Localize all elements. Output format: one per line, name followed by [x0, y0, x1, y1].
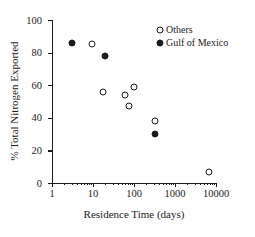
x-tick-minor [169, 183, 170, 185]
legend-marker [157, 39, 164, 46]
data-point [102, 52, 109, 59]
data-point [125, 103, 132, 110]
x-tick-minor [207, 183, 208, 185]
y-tick: 100 [48, 20, 52, 21]
x-tick-minor [195, 183, 196, 185]
x-tick-minor [125, 183, 126, 185]
filled-circle-icon [154, 39, 166, 46]
x-tick-minor [173, 183, 174, 185]
data-point [68, 39, 75, 46]
y-axis-title: % Total Nitrogen Exported [8, 21, 20, 181]
x-tick [216, 183, 217, 187]
legend-label: Others [166, 25, 193, 35]
x-tick-minor [128, 183, 129, 185]
x-tick-minor [154, 183, 155, 185]
legend-marker [157, 26, 164, 33]
x-tick-minor [64, 183, 65, 185]
y-axis-line [52, 20, 53, 183]
x-tick-minor [89, 183, 90, 185]
open-circle-icon [154, 26, 166, 33]
x-tick-label: 10000 [203, 189, 229, 200]
data-point [152, 131, 159, 138]
x-tick-minor [77, 183, 78, 185]
x-tick-minor [166, 183, 167, 185]
x-tick-minor [171, 183, 172, 185]
x-tick-minor [210, 183, 211, 185]
y-tick: 80 [48, 53, 52, 54]
x-tick [93, 183, 94, 187]
x-tick-minor [87, 183, 88, 185]
x-tick-minor [163, 183, 164, 185]
x-tick [134, 183, 135, 187]
scatter-plot-figure: 020406080100 110100100010000 Residence T… [0, 0, 255, 237]
x-tick-label: 1 [49, 189, 54, 200]
x-tick-minor [91, 183, 92, 185]
data-point [122, 91, 129, 98]
y-tick-label: 100 [26, 15, 42, 26]
x-tick-minor [204, 183, 205, 185]
x-tick-minor [118, 183, 119, 185]
legend: OthersGulf of Mexico [154, 23, 228, 49]
x-tick-label: 100 [126, 189, 142, 200]
x-tick-label: 10 [88, 189, 99, 200]
y-tick-label: 20 [32, 146, 43, 157]
legend-label: Gulf of Mexico [166, 38, 228, 48]
x-tick-minor [122, 183, 123, 185]
x-tick-minor [105, 183, 106, 185]
x-tick-label: 1000 [165, 189, 186, 200]
x-tick-minor [84, 183, 85, 185]
x-tick-minor [72, 183, 73, 185]
legend-item: Gulf of Mexico [154, 36, 228, 49]
x-axis-title: Residence Time (days) [52, 208, 216, 220]
x-tick-minor [200, 183, 201, 185]
x-tick-minor [132, 183, 133, 185]
x-tick [52, 183, 53, 187]
y-tick-label: 60 [32, 81, 43, 92]
x-tick-minor [187, 183, 188, 185]
y-tick-label: 0 [37, 178, 42, 189]
data-point [206, 168, 213, 175]
x-tick-minor [214, 183, 215, 185]
x-tick-minor [159, 183, 160, 185]
y-tick: 60 [48, 85, 52, 86]
y-tick-label: 40 [32, 113, 43, 124]
x-tick-minor [81, 183, 82, 185]
x-tick-minor [130, 183, 131, 185]
data-point [89, 41, 96, 48]
x-tick-minor [212, 183, 213, 185]
x-tick [175, 183, 176, 187]
y-tick: 40 [48, 118, 52, 119]
y-tick-label: 80 [32, 48, 43, 59]
x-tick-minor [146, 183, 147, 185]
data-point [100, 88, 107, 95]
data-point [152, 118, 159, 125]
y-tick: 20 [48, 150, 52, 151]
x-tick-minor [113, 183, 114, 185]
legend-item: Others [154, 23, 228, 36]
data-point [131, 83, 138, 90]
